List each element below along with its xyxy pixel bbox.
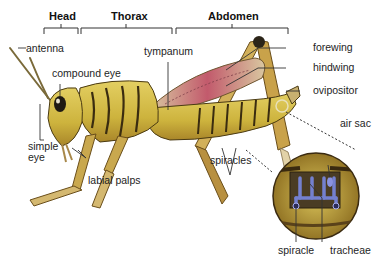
magnified-detail [273,153,360,239]
label-tympanum: tympanum [144,46,193,57]
section-header-head: Head [49,10,76,22]
thorax [78,81,158,142]
grasshopper-diagram: Head Thorax Abdomen antenna compound eye… [0,0,381,259]
label-compound-eye: compound eye [52,68,121,79]
antennae [10,48,50,100]
head [48,88,82,146]
labial-palps-shape [62,144,72,162]
label-spiracle: spiracle [278,245,314,256]
label-spiracles: spiracles [210,155,251,166]
compound-eye-shape [54,96,66,112]
label-simple-eye: simple eye [28,141,58,163]
label-air-sac: air sac [340,118,371,129]
label-labial-palps: labial palps [88,175,141,186]
label-tracheae: tracheae [330,245,371,256]
label-hindwing: hindwing [313,62,354,73]
label-forewing: forewing [313,42,353,53]
label-antenna: antenna [26,43,64,54]
grasshopper-illustration [0,0,381,259]
section-header-abdomen: Abdomen [208,10,259,22]
section-brackets [44,24,288,34]
section-header-thorax: Thorax [111,10,148,22]
label-ovipositor: ovipositor [313,85,358,96]
